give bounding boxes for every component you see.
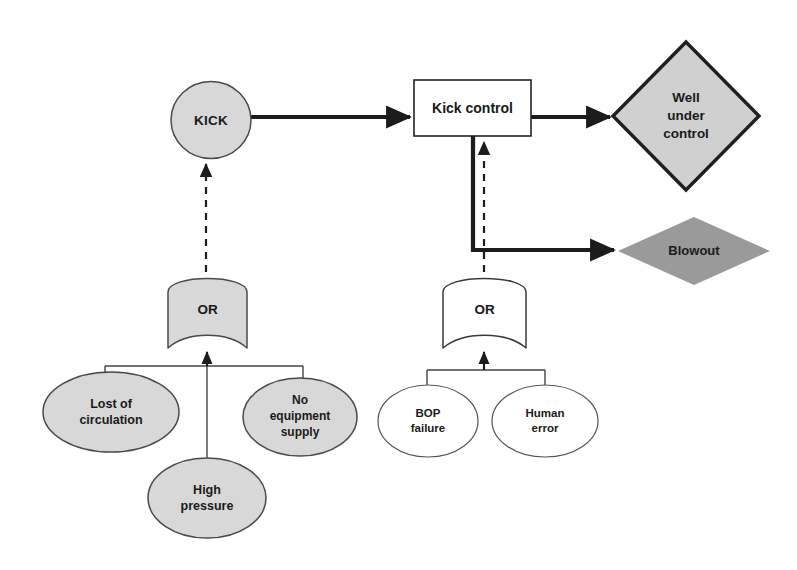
connector-right-tree-to-or-right: [427, 352, 545, 387]
node-or-gate-right[interactable]: [443, 279, 526, 349]
node-bop-failure[interactable]: [378, 385, 478, 457]
node-kick[interactable]: [171, 82, 251, 159]
node-high-pressure[interactable]: [148, 458, 266, 538]
node-blowout[interactable]: [618, 217, 770, 285]
connector-kick-control-to-blowout: [473, 136, 614, 250]
node-lost-of-circulation[interactable]: [43, 372, 179, 452]
bowtie-diagram: KICK Kick control Well under control Blo…: [0, 0, 797, 570]
node-no-equipment-supply[interactable]: [243, 378, 357, 456]
diagram-canvas: [0, 0, 797, 570]
node-or-gate-left[interactable]: [168, 279, 247, 349]
node-well-under-control[interactable]: [613, 42, 759, 190]
node-human-error[interactable]: [492, 385, 598, 457]
node-kick-control[interactable]: [414, 80, 531, 136]
